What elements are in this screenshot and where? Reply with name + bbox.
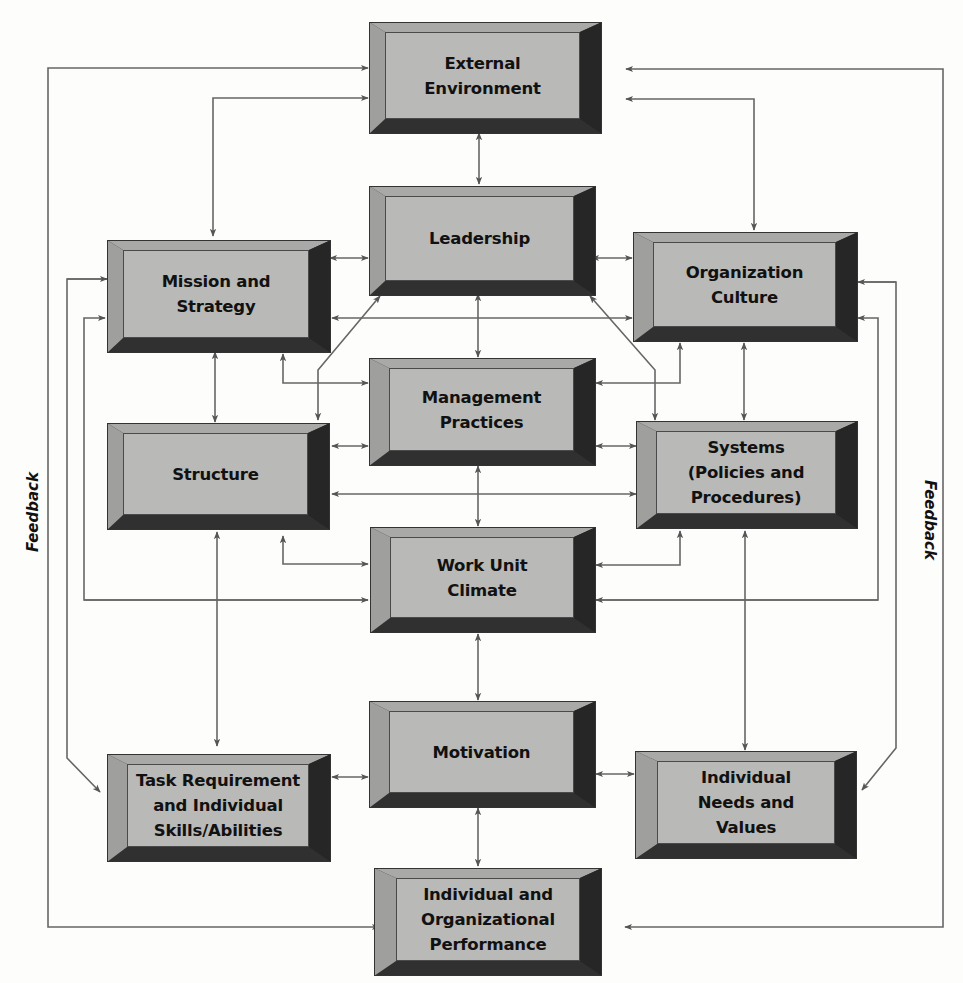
box-face: Structure bbox=[123, 433, 308, 515]
box-face: Individual and Organizational Performanc… bbox=[396, 878, 580, 961]
box-face: Systems (Policies and Procedures) bbox=[656, 431, 836, 514]
box-label: Task Requirement and Individual Skills/A… bbox=[136, 768, 300, 843]
box-label: Individual and Organizational Performanc… bbox=[421, 882, 555, 957]
box-work-unit-climate: Work Unit Climate bbox=[370, 527, 596, 633]
box-structure: Structure bbox=[107, 423, 330, 530]
box-face: Work Unit Climate bbox=[390, 537, 574, 618]
box-label: Structure bbox=[172, 462, 259, 487]
box-label: Individual Needs and Values bbox=[698, 765, 794, 840]
box-face: Management Practices bbox=[389, 368, 574, 451]
box-label: Motivation bbox=[433, 740, 531, 765]
box-management-practices: Management Practices bbox=[369, 358, 596, 466]
feedback-label-left: Feedback bbox=[24, 472, 42, 552]
box-task-requirement-skills: Task Requirement and Individual Skills/A… bbox=[107, 754, 331, 862]
box-label: Organization Culture bbox=[686, 260, 803, 310]
burke-litwin-model-diagram: External Environment Leadership Mission … bbox=[0, 0, 963, 983]
box-label: Work Unit Climate bbox=[437, 553, 528, 603]
box-face: Leadership bbox=[385, 196, 574, 281]
box-label: Mission and Strategy bbox=[162, 269, 271, 319]
box-label: External Environment bbox=[424, 51, 540, 101]
box-label: Systems (Policies and Procedures) bbox=[688, 435, 805, 510]
box-individual-needs-values: Individual Needs and Values bbox=[635, 751, 857, 859]
box-label: Management Practices bbox=[422, 385, 541, 435]
ext-env-culture-link bbox=[626, 99, 754, 230]
box-face: External Environment bbox=[385, 32, 580, 119]
box-external-environment: External Environment bbox=[369, 22, 602, 134]
box-face: Task Requirement and Individual Skills/A… bbox=[127, 764, 309, 847]
box-face: Organization Culture bbox=[653, 242, 836, 327]
feedback-label-right: Feedback bbox=[921, 480, 939, 560]
ext-env-mission-link bbox=[213, 98, 368, 236]
box-leadership: Leadership bbox=[369, 186, 596, 296]
box-label: Leadership bbox=[429, 226, 530, 251]
box-organization-culture: Organization Culture bbox=[633, 232, 858, 342]
box-motivation: Motivation bbox=[369, 701, 596, 808]
box-face: Motivation bbox=[389, 711, 574, 793]
box-mission-strategy: Mission and Strategy bbox=[107, 240, 331, 353]
box-face: Mission and Strategy bbox=[123, 250, 309, 338]
box-face: Individual Needs and Values bbox=[657, 761, 835, 844]
box-individual-organizational-performance: Individual and Organizational Performanc… bbox=[374, 868, 602, 976]
box-systems-policies-procedures: Systems (Policies and Procedures) bbox=[636, 421, 858, 529]
